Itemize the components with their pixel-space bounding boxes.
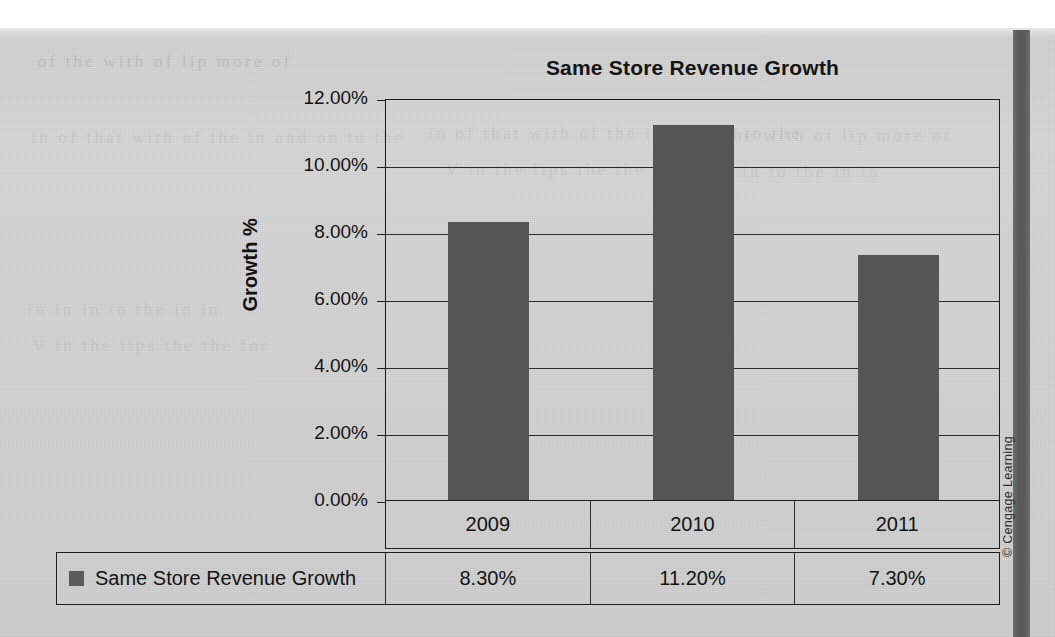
legend-data-table: Same Store Revenue Growth 8.30%11.20%7.3…: [56, 552, 1000, 605]
y-axis-tick-label: 12.00%: [240, 87, 368, 109]
y-axis-tick: [377, 100, 386, 101]
y-axis-tick-label: 2.00%: [240, 422, 368, 444]
y-axis-tick-label: 4.00%: [240, 355, 368, 377]
data-value-2009: 8.30%: [386, 553, 591, 604]
bar-chart: Same Store Revenue Growth Growth % 12.00…: [0, 0, 1055, 637]
legend-swatch-icon: [69, 571, 84, 586]
y-axis-tick-label: 8.00%: [240, 221, 368, 243]
data-value-2011: 7.30%: [795, 553, 999, 604]
plot-area: [385, 99, 1000, 501]
y-axis-tick: [377, 301, 386, 302]
data-value-2010: 11.20%: [591, 553, 796, 604]
y-axis-tick: [377, 167, 386, 168]
bar-2010: [653, 125, 734, 500]
y-axis-tick-label: 0.00%: [240, 489, 368, 511]
legend-series-entry: Same Store Revenue Growth: [57, 553, 386, 604]
legend-series-label: Same Store Revenue Growth: [95, 567, 356, 590]
y-axis-tick: [377, 368, 386, 369]
x-axis-category-2011: 2011: [795, 501, 999, 548]
y-axis-tick-label: 6.00%: [240, 288, 368, 310]
chart-title: Same Store Revenue Growth: [385, 56, 1000, 80]
scanned-page: of the with of lip more of in of that wi…: [0, 0, 1055, 637]
bar-2009: [448, 222, 529, 500]
y-axis-tick: [377, 435, 386, 436]
copyright-notice: © Cengage Learning: [1001, 397, 1015, 557]
y-axis-tick-label: 10.00%: [240, 154, 368, 176]
y-axis-tick: [377, 234, 386, 235]
x-axis-category-2009: 2009: [386, 501, 591, 548]
x-axis-category-2010: 2010: [591, 501, 796, 548]
bar-2011: [858, 255, 939, 500]
x-axis-category-row: 200920102011: [385, 501, 1000, 549]
